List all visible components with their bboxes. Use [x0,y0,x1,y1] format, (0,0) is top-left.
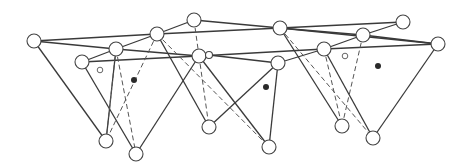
filled-point [375,63,381,69]
edge-A-G [34,41,116,49]
edge-G-M [106,49,116,141]
edge-I-N [136,56,199,154]
edge-A-M [34,41,106,141]
dashed-edge-G-N [116,49,136,154]
node-C [187,13,201,27]
node-B [150,27,164,41]
diagram-canvas [0,0,460,163]
node-O [202,120,216,134]
edge-D-E [280,22,403,28]
edge-B-O [157,34,209,127]
edge-O-J [209,63,278,127]
node-I [192,49,206,63]
edge-A-B [34,34,157,41]
hollow-point [97,67,103,73]
node-H [75,55,89,69]
node-F [431,37,445,51]
dashed-edges [106,20,373,154]
node-K [317,42,331,56]
node-P [262,140,276,154]
edge-I2-J [209,55,278,63]
node-D [273,21,287,35]
node-R [366,131,380,145]
node-G [109,42,123,56]
edge-G-I [116,49,199,56]
filled-point [131,77,137,83]
edge-J-P [269,63,278,147]
node-I2 [206,52,213,59]
node-A [27,34,41,48]
edge-B-D [157,28,280,34]
node-L [356,28,370,42]
node-J [271,56,285,70]
node-Q [335,119,349,133]
edge-K-F [324,44,438,49]
graph-nodes [27,13,445,161]
filled-point [263,84,269,90]
edge-C-D [194,20,280,28]
network-diagram [0,0,460,163]
node-N [129,147,143,161]
node-E [396,15,410,29]
edge-D-Q [280,28,342,126]
hollow-point [342,53,348,59]
edge-F-R [373,44,438,138]
dashed-edge-K-Q [324,49,342,126]
node-M [99,134,113,148]
